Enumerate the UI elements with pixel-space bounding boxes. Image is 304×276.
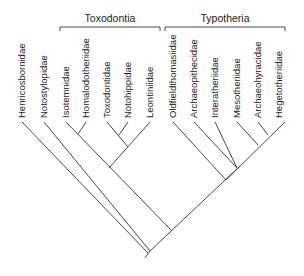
taxon-label: Archaeohyracidae	[252, 41, 263, 118]
cladogram: Toxodontia Typotheria Henricosbornidae N…	[0, 0, 304, 276]
taxon-label: Oldfieldthomasiidae	[167, 35, 178, 118]
taxon-label: Notohippidae	[122, 62, 133, 118]
tree-branches	[22, 122, 285, 258]
taxon-label: Notostylopidae	[38, 55, 49, 118]
taxon-label: Hegetotheriidae	[273, 51, 284, 118]
taxon-labels: Henricosbornidae Notostylopidae Isotemni…	[16, 35, 284, 118]
taxon-label: Toxodontidae	[101, 61, 112, 118]
group-label-typotheria: Typotheria	[200, 12, 249, 24]
taxon-label: Interatheriidae	[209, 57, 220, 118]
taxon-label: Mesotheriidae	[231, 58, 242, 118]
taxon-label: Henricosbornidae	[16, 44, 27, 118]
typotheria-bracket: Typotheria	[165, 12, 285, 31]
group-label-toxodontia: Toxodontia	[85, 12, 136, 24]
taxon-label: Isotemnidae	[60, 66, 71, 118]
toxodontia-bracket: Toxodontia	[60, 12, 160, 31]
taxon-label: Archaeopithecidae	[188, 39, 199, 118]
taxon-label: Homalodotheriidae	[80, 38, 91, 118]
taxon-label: Leontiniidae	[144, 67, 155, 118]
